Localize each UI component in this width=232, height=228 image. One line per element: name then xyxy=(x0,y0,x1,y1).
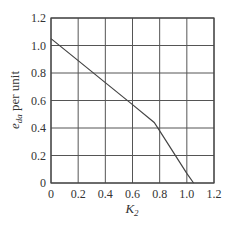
x-axis-ticks: 00.20.40.60.81.01.2 xyxy=(48,187,222,201)
y-tick-label: 0.6 xyxy=(31,94,46,108)
y-axis-label: eda per unit xyxy=(7,71,24,129)
y-tick-label: 0.4 xyxy=(31,121,46,135)
x-tick-label: 0.8 xyxy=(152,187,167,201)
x-tick-label: 1.0 xyxy=(179,187,194,201)
x-tick-label: 0.6 xyxy=(125,187,140,201)
chart: 00.20.40.60.81.01.2 00.20.40.60.81.01.2 … xyxy=(0,0,232,228)
x-tick-label: 0 xyxy=(48,187,54,201)
grid xyxy=(51,18,214,183)
x-tick-label: 0.4 xyxy=(98,187,113,201)
x-tick-label: 1.2 xyxy=(207,187,222,201)
y-tick-label: 0.8 xyxy=(31,66,46,80)
y-tick-label: 0 xyxy=(40,176,46,190)
y-tick-label: 1.0 xyxy=(31,39,46,53)
x-tick-label: 0.2 xyxy=(71,187,86,201)
y-axis-ticks: 00.20.40.60.81.01.2 xyxy=(31,11,46,190)
y-tick-label: 0.2 xyxy=(31,149,46,163)
x-axis-label: K2 xyxy=(124,201,139,218)
y-tick-label: 1.2 xyxy=(31,11,46,25)
data-line xyxy=(51,39,194,183)
